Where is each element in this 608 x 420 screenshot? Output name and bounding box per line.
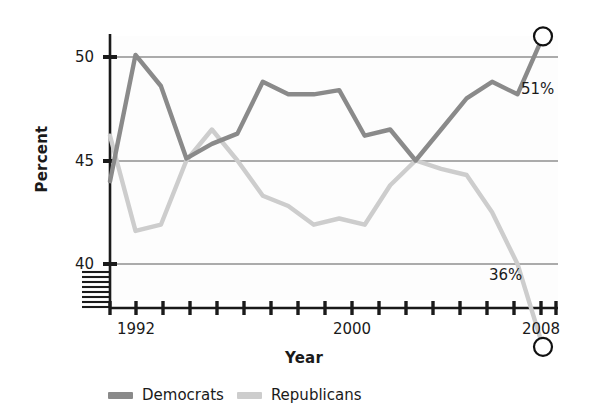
x-axis-title: Year (264, 349, 344, 367)
chart-legend: Democrats Republicans (108, 386, 362, 404)
y-axis-title: Percent (33, 109, 51, 209)
legend-label-democrats: Democrats (142, 386, 224, 404)
legend-item-republicans: Republicans (237, 386, 362, 404)
x-tick-label-2000: 2000 (322, 320, 382, 338)
x-tick-label-1992: 1992 (106, 320, 166, 338)
legend-item-democrats: Democrats (108, 386, 224, 404)
chart-figure: Percent Year 50 45 40 1992 2000 2008 51%… (0, 0, 608, 420)
y-tick-label-45: 45 (60, 152, 94, 170)
republican-endpoint-label: 36% (489, 266, 522, 284)
democrat-endpoint-label: 51% (521, 80, 554, 98)
legend-swatch-republicans (237, 392, 262, 399)
endpoint-marker-republicans (534, 338, 552, 356)
x-tick-label-2008: 2008 (511, 320, 571, 338)
endpoint-marker-democrats (534, 27, 552, 45)
axis-break-hatch (82, 272, 110, 307)
y-tick-label-50: 50 (60, 48, 94, 66)
plot-background (110, 36, 558, 300)
y-tick-label-40: 40 (60, 255, 94, 273)
legend-label-republicans: Republicans (271, 386, 362, 404)
legend-swatch-democrats (108, 392, 133, 399)
